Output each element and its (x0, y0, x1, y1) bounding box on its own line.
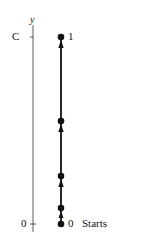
arrow-up-icon (58, 40, 63, 48)
node-start (58, 221, 65, 228)
arrow-up-icon (58, 124, 63, 132)
node (58, 173, 65, 180)
diagram-canvas (0, 0, 149, 232)
axis-tick-label-zero: 0 (21, 218, 27, 229)
node-label-one: 1 (68, 31, 74, 42)
arrow-up-icon (58, 179, 63, 187)
axis-tick-label-c: C (12, 31, 19, 42)
axis-label-y: y (30, 14, 34, 25)
node (58, 205, 65, 212)
node-top (58, 34, 65, 41)
start-label: Starts (82, 218, 107, 229)
arrow-up-icon (59, 211, 64, 218)
node (58, 118, 65, 125)
node-label-zero: 0 (68, 218, 74, 229)
